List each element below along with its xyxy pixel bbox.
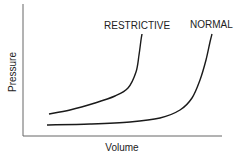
y-axis-label: Pressure [7, 52, 18, 92]
normal-label: NORMAL [190, 19, 233, 30]
restrictive-label: RESTRICTIVE [104, 20, 170, 31]
pressure-volume-chart: RESTRICTIVE NORMAL Volume Pressure [0, 0, 236, 160]
normal-curve [47, 34, 212, 125]
x-axis-label: Volume [105, 142, 139, 153]
restrictive-curve [49, 34, 142, 114]
